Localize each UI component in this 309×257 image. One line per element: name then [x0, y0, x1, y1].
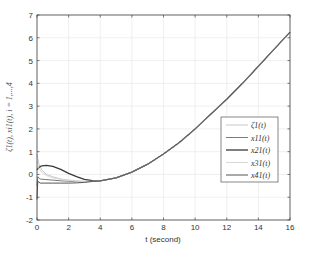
- x-tick-label: 6: [130, 223, 135, 232]
- y-tick-label: 5: [29, 57, 34, 66]
- line-chart: 0246810121416 -2-101234567 t (second) ζ1…: [0, 0, 309, 257]
- y-tick-label: 4: [29, 79, 34, 88]
- x-tick-label: 4: [98, 223, 103, 232]
- x-tick-label: 0: [35, 223, 40, 232]
- legend-label: x31(t): [250, 159, 270, 168]
- y-axis-label: ζ1(t), xi1(t), i = 1,...,4: [5, 82, 14, 152]
- legend-label: x41(t): [250, 171, 270, 180]
- y-tick-label: -1: [26, 193, 34, 202]
- legend-label: x11(t): [250, 134, 270, 143]
- legend: ζ1(t)x11(t)x21(t)x31(t)x41(t): [221, 117, 278, 182]
- y-tick-label: 0: [29, 170, 34, 179]
- legend-label: ζ1(t): [251, 121, 266, 130]
- y-tick-label: 3: [29, 102, 34, 111]
- x-tick-label: 10: [191, 223, 200, 232]
- legend-label: x21(t): [250, 146, 270, 155]
- x-axis-label: t (second): [145, 235, 181, 244]
- y-tick-label: 2: [29, 125, 34, 134]
- y-tick-label: -2: [26, 216, 34, 225]
- y-tick-label: 6: [29, 34, 34, 43]
- y-tick-label: 7: [29, 11, 34, 20]
- x-tick-label: 16: [286, 223, 295, 232]
- y-tick-label: 1: [29, 148, 34, 157]
- x-tick-label: 2: [66, 223, 71, 232]
- x-tick-label: 14: [254, 223, 263, 232]
- x-tick-label: 8: [161, 223, 166, 232]
- x-tick-label: 12: [222, 223, 231, 232]
